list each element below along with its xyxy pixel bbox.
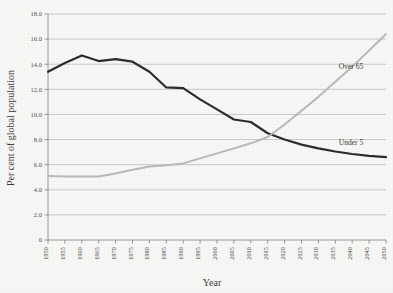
x-tick-label: 2010 xyxy=(245,247,252,260)
x-axis-title: Year xyxy=(203,277,222,288)
x-tick-label: 1955 xyxy=(59,247,66,260)
x-tick-label: 1990 xyxy=(177,247,184,260)
y-axis-title: Per cent of global population xyxy=(5,70,16,186)
x-tick-label: 1975 xyxy=(127,247,134,260)
x-tick-label: 2045 xyxy=(363,247,370,260)
y-tick-label: 10.0 xyxy=(30,111,42,118)
x-tick-label: 2005 xyxy=(228,247,235,260)
x-tick-label: 2025 xyxy=(296,247,303,260)
x-tick-label: 1965 xyxy=(93,247,100,260)
x-tick-label: 2015 xyxy=(262,247,269,260)
population-line-chart: 02.04.06.08.010.012.014.016.018.0 195019… xyxy=(0,0,393,293)
y-tick-label: 18.0 xyxy=(30,10,42,17)
x-tick-label: 1960 xyxy=(76,247,83,260)
series-label-under-5: Under 5 xyxy=(339,138,364,147)
y-tick-label: 12.0 xyxy=(30,86,42,93)
y-tick-label: 4.0 xyxy=(34,186,42,193)
x-axis-ticks xyxy=(48,240,386,244)
x-tick-label: 1970 xyxy=(110,247,117,260)
x-tick-label: 1995 xyxy=(194,247,201,260)
x-tick-label: 2020 xyxy=(279,247,286,260)
series-label-over-65: Over 65 xyxy=(339,62,364,71)
x-tick-label: 1950 xyxy=(42,247,49,260)
y-tick-label: 6.0 xyxy=(34,161,42,168)
y-tick-label: 8.0 xyxy=(34,136,42,143)
x-tick-label: 2040 xyxy=(346,247,353,260)
y-tick-label: 16.0 xyxy=(30,35,42,42)
y-tick-label: 2.0 xyxy=(34,211,42,218)
x-tick-label: 2000 xyxy=(211,247,218,260)
x-tick-label: 2035 xyxy=(329,247,336,260)
x-tick-label: 2030 xyxy=(312,247,319,260)
chart-page: 02.04.06.08.010.012.014.016.018.0 195019… xyxy=(0,0,393,293)
x-tick-label: 1985 xyxy=(160,247,167,260)
x-tick-label: 2050 xyxy=(380,247,387,260)
x-tick-label: 1980 xyxy=(143,247,150,260)
y-tick-label: 14.0 xyxy=(30,61,42,68)
y-tick-label: 0 xyxy=(39,236,42,243)
x-axis-tick-labels: 1950195519601965197019751980198519901995… xyxy=(42,247,387,260)
